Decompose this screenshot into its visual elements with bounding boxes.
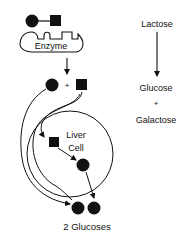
liver-cell — [27, 111, 113, 197]
enzyme-label: Enzyme — [35, 41, 68, 51]
glucose-exit-arrow — [86, 172, 94, 198]
result-label: 2 Glucoses — [63, 221, 111, 232]
converted-glucose — [77, 159, 90, 172]
lactose-digestion-diagram: Enzyme + Liver Cell 2 Glucoses Lactose G… — [0, 0, 189, 237]
liver-label-line2: Cell — [68, 143, 84, 153]
galactose-in-cell — [49, 137, 59, 147]
galactose-label: Galactose — [136, 115, 177, 125]
liver-label-line1: Liver — [66, 130, 86, 140]
plus-sign-right: + — [154, 99, 159, 108]
galactose-square — [76, 79, 87, 90]
result-glucose-1 — [72, 202, 85, 215]
glucose-label: Glucose — [139, 83, 172, 93]
lactose-molecule — [26, 15, 62, 28]
result-glucose-2 — [88, 202, 101, 215]
lactose-label: Lactose — [141, 19, 173, 29]
plus-sign-left: + — [65, 81, 70, 90]
glucose-circle — [46, 79, 59, 92]
